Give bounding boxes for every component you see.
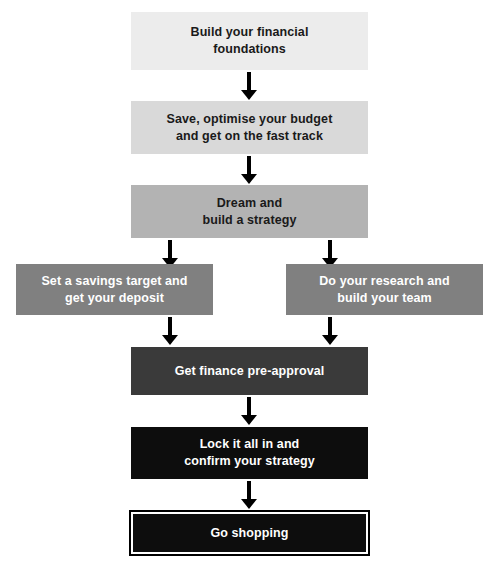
connector-arrow-down [241,72,257,100]
flow-node-label: Do your research and build your team [319,273,450,307]
flow-node-lock-it-in[interactable]: Lock it all in and confirm your strategy [131,427,368,479]
flow-node-research-build-team[interactable]: Do your research and build your team [286,264,483,315]
flow-node-label: Lock it all in and confirm your strategy [184,436,315,470]
flow-node-dream-build-strategy[interactable]: Dream and build a strategy [131,185,368,238]
flow-node-go-shopping[interactable]: Go shopping [131,512,368,554]
connector-arrow-down [241,481,257,509]
flow-node-label: Set a savings target and get your deposi… [41,273,187,307]
connector-arrow-down [241,156,257,184]
flow-node-label: Get finance pre-approval [175,363,325,380]
flow-node-label: Dream and build a strategy [203,195,297,229]
flow-node-label: Go shopping [210,525,288,542]
flow-node-label: Save, optimise your budget and get on th… [167,111,333,145]
flow-node-finance-pre-approval[interactable]: Get finance pre-approval [131,347,368,395]
connector-arrow-down [241,397,257,425]
flow-node-save-optimise-budget[interactable]: Save, optimise your budget and get on th… [131,101,368,154]
flow-node-savings-target-deposit[interactable]: Set a savings target and get your deposi… [16,264,213,315]
connector-arrow-down-right-merge [322,317,338,345]
flowchart-diagram: Build your financial foundations Save, o… [0,0,498,571]
flow-node-build-financial-foundations[interactable]: Build your financial foundations [131,12,368,70]
flow-node-label: Build your financial foundations [191,24,309,58]
connector-arrow-down-left-merge [162,317,178,345]
